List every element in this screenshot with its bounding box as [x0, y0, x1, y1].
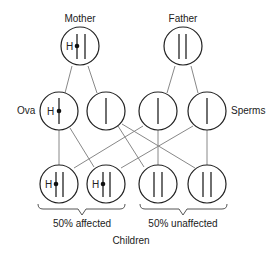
children-label: Children — [112, 235, 149, 246]
inheritance-diagram: Mother Father Ova Sperms H H — [0, 0, 276, 258]
ovum-2 — [87, 92, 125, 130]
child-2: H — [87, 165, 125, 203]
child-3 — [139, 165, 177, 203]
gamete-child-connectors — [59, 124, 207, 168]
affected-bracket — [38, 204, 125, 215]
gene-marker-icon — [75, 44, 80, 49]
gene-label: H — [45, 179, 52, 190]
parent-gamete-connectors — [65, 66, 198, 93]
mother-label: Mother — [64, 13, 96, 24]
gene-marker-icon — [57, 109, 62, 114]
ovum-1: H — [40, 92, 78, 130]
child-1: H — [40, 165, 78, 203]
mother-cell: H — [61, 27, 99, 65]
affected-label: 50% affected — [53, 218, 111, 229]
ova-label: Ova — [17, 105, 36, 116]
gene-marker-icon — [101, 182, 106, 187]
unaffected-label: 50% unaffected — [148, 218, 217, 229]
gene-label: H — [92, 179, 99, 190]
father-cell — [164, 27, 202, 65]
sperm-2 — [188, 92, 226, 130]
gene-marker-icon — [54, 182, 59, 187]
gene-label: H — [47, 106, 54, 117]
sperms-label: Sperms — [231, 105, 265, 116]
unaffected-bracket — [140, 204, 227, 215]
child-4 — [188, 165, 226, 203]
father-label: Father — [169, 13, 199, 24]
gene-label: H — [66, 41, 73, 52]
sperm-1 — [139, 92, 177, 130]
